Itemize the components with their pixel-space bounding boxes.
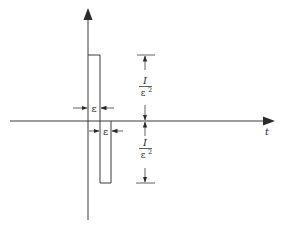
- pulse-diagram: ε ε I ε 2 I ε 2 t: [0, 0, 281, 227]
- upper-exponent: 2: [148, 86, 152, 94]
- epsilon-label-1: ε: [91, 103, 96, 114]
- upper-amplitude-dimension: I ε 2: [137, 55, 155, 120]
- lower-exponent: 2: [148, 148, 152, 156]
- lower-denominator: ε: [141, 150, 146, 160]
- epsilon-width-marker-1: ε: [73, 103, 114, 114]
- lower-numerator: I: [142, 137, 148, 148]
- t-axis-label: t: [265, 126, 270, 137]
- upper-numerator: I: [142, 75, 148, 86]
- vertical-axis: [84, 8, 93, 220]
- lower-amplitude-dimension: I ε 2: [136, 122, 155, 183]
- epsilon-label-2: ε: [103, 126, 108, 137]
- t-axis-arrow-icon: [263, 117, 275, 126]
- epsilon-width-marker-2: ε: [89, 126, 123, 137]
- t-axis: [10, 117, 275, 126]
- upper-denominator: ε: [141, 88, 146, 98]
- vertical-axis-arrow-icon: [84, 8, 93, 20]
